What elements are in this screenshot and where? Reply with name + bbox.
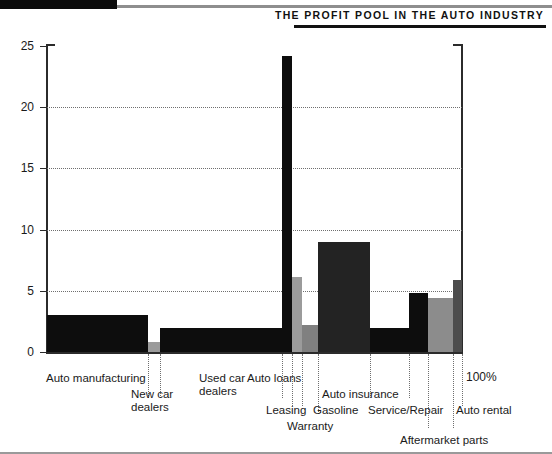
bar-new-car-dealers[interactable] [148, 342, 160, 352]
y-tick-mark [40, 230, 47, 231]
bar-leasing[interactable] [292, 277, 302, 352]
x-tick-guide [409, 354, 410, 398]
bar-service-repair[interactable] [409, 293, 428, 352]
y-tick-mark [40, 46, 47, 47]
chart-figure: 0510152025 Auto manufacturingNew cardeal… [0, 30, 552, 454]
bar-auto-manufacturing[interactable] [47, 315, 148, 352]
y-tick-mark [40, 352, 47, 353]
x-tick-guide [428, 354, 429, 428]
y-tick-label: 0 [8, 346, 34, 358]
category-label-aftermarket-parts: Aftermarket parts [400, 434, 488, 447]
title-underline [294, 25, 546, 28]
y-tick-label: 20 [8, 101, 34, 113]
y-tick-label: 10 [8, 224, 34, 236]
category-label-auto-loans: Auto loans [247, 372, 301, 385]
category-label-gasoline: Gasoline [313, 404, 358, 417]
x-tick-guide [453, 354, 454, 428]
plot-area [47, 46, 462, 352]
x-tick-guide [302, 354, 303, 406]
x-tick-guide [462, 354, 463, 406]
y-tick-label: 25 [8, 40, 34, 52]
category-label-auto-manufacturing: Auto manufacturing [46, 372, 146, 385]
bar-warranty[interactable] [302, 325, 318, 352]
category-label-service-repair: Service/Repair [368, 404, 443, 417]
category-label-auto-rental: Auto rental [456, 404, 512, 417]
y-tick-mark [40, 168, 47, 169]
category-label-line2: dealers [199, 385, 245, 398]
bar-gasoline[interactable] [370, 328, 409, 352]
bar-aftermarket-parts[interactable] [428, 298, 453, 352]
y-tick-mark [40, 291, 47, 292]
category-label-line2: dealers [131, 401, 173, 414]
y-tick-mark [40, 107, 47, 108]
y-tick-label: 15 [8, 162, 34, 174]
bar-auto-loans[interactable] [282, 56, 292, 352]
category-label-warranty: Warranty [287, 420, 333, 433]
header-accent-bar [0, 0, 117, 9]
category-label-auto-insurance: Auto insurance [322, 388, 399, 401]
header-rule [117, 5, 552, 8]
x-axis-end-label: 100% [466, 370, 497, 384]
bar-used-car-dealers[interactable] [160, 328, 282, 352]
x-axis-line [46, 352, 463, 354]
category-label-new-car-dealers: New cardealers [131, 388, 173, 413]
category-label-leasing: Leasing [266, 404, 306, 417]
bar-auto-insurance[interactable] [318, 242, 370, 352]
y-tick-label: 5 [8, 285, 34, 297]
bar-auto-rental[interactable] [453, 280, 462, 352]
page-title: The Profit Pool in the Auto Industry [275, 9, 544, 21]
category-label-used-car-dealers: Used cardealers [199, 372, 245, 397]
